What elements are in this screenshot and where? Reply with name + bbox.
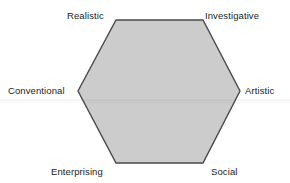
riasec-hexagon-figure: Realistic Investigative Conventional Art… [0, 0, 290, 183]
vertex-label-realistic: Realistic [67, 10, 104, 21]
vertex-label-social: Social [211, 166, 237, 177]
vertex-label-investigative: Investigative [205, 10, 259, 21]
vertex-label-conventional: Conventional [8, 85, 65, 96]
hexagon-polygon [78, 20, 240, 163]
vertex-label-artistic: Artistic [245, 85, 274, 96]
vertex-label-enterprising: Enterprising [51, 166, 103, 177]
